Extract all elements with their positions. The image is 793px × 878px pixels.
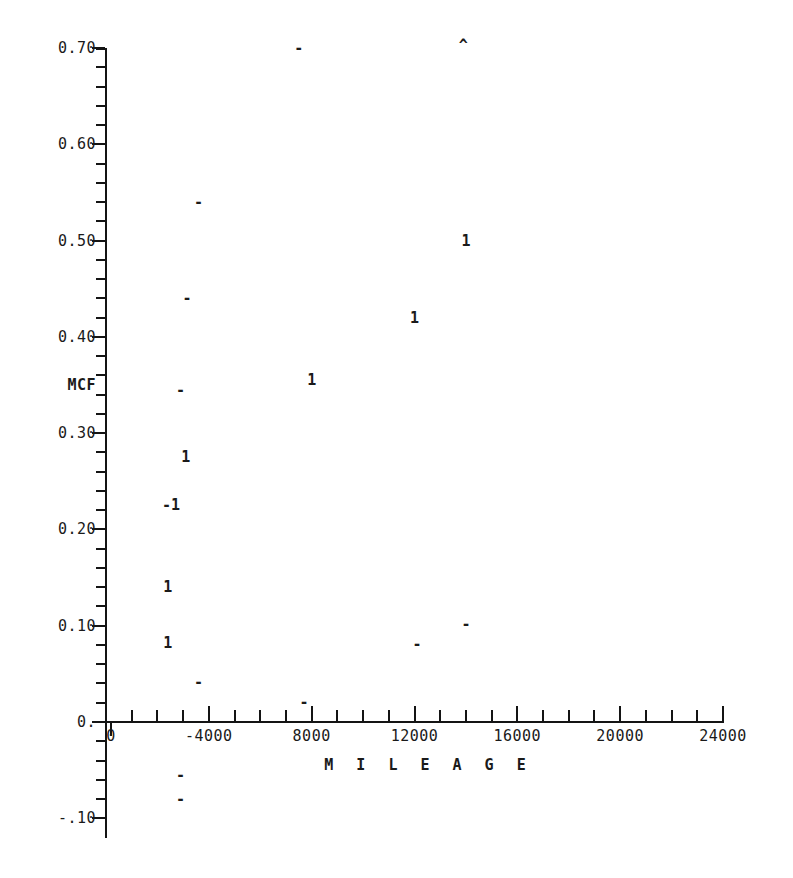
x-axis-minor-tick bbox=[156, 710, 158, 721]
x-axis-minor-tick bbox=[259, 710, 261, 721]
x-axis-minor-tick bbox=[336, 710, 338, 721]
data-point-caret: ^ bbox=[459, 38, 468, 53]
data-point-dash: - bbox=[176, 382, 185, 397]
y-axis-minor-tick bbox=[96, 201, 105, 203]
y-axis-minor-tick bbox=[96, 567, 105, 569]
data-point-dash: - bbox=[413, 637, 422, 652]
x-axis-tick-label: 8000 bbox=[293, 729, 331, 744]
y-axis-minor-tick bbox=[96, 548, 105, 550]
y-axis-tick-label: 0.20 bbox=[58, 522, 96, 537]
y-axis-title: MCF bbox=[67, 378, 96, 393]
y-axis-minor-tick bbox=[96, 124, 105, 126]
data-point-dash: - bbox=[162, 498, 171, 513]
y-axis-minor-tick bbox=[96, 355, 105, 357]
x-axis-tick-label: -4000 bbox=[185, 729, 233, 744]
x-axis-minor-tick bbox=[491, 710, 493, 721]
y-axis-minor-tick bbox=[96, 297, 105, 299]
x-axis-minor-tick bbox=[388, 710, 390, 721]
y-axis-minor-tick bbox=[96, 779, 105, 781]
y-axis-minor-tick bbox=[96, 163, 105, 165]
x-axis-major-tick bbox=[619, 706, 621, 721]
y-axis-tick-label: 0.70 bbox=[58, 41, 96, 56]
x-axis-minor-tick bbox=[465, 710, 467, 721]
data-point-one: 1 bbox=[163, 580, 172, 595]
x-axis-tick-label: 20000 bbox=[596, 729, 644, 744]
data-point-one: 1 bbox=[410, 310, 419, 325]
x-axis-minor-tick bbox=[696, 710, 698, 721]
x-axis-minor-tick bbox=[362, 710, 364, 721]
x-axis-major-tick bbox=[722, 706, 724, 721]
data-point-dash: - bbox=[176, 767, 185, 782]
y-axis-minor-tick bbox=[96, 66, 105, 68]
y-axis-minor-tick bbox=[96, 451, 105, 453]
x-axis-minor-tick bbox=[568, 710, 570, 721]
y-axis-tick-label: 0.50 bbox=[58, 234, 96, 249]
x-axis-tick-label: 12000 bbox=[391, 729, 439, 744]
y-axis-tick-label: 0.10 bbox=[58, 619, 96, 634]
data-point-dash: - bbox=[299, 694, 308, 709]
y-axis-minor-tick bbox=[96, 490, 105, 492]
data-point-dash: - bbox=[294, 41, 303, 56]
data-point-dash: - bbox=[176, 792, 185, 807]
x-axis-minor-tick bbox=[671, 710, 673, 721]
y-axis-minor-tick bbox=[96, 182, 105, 184]
x-axis-minor-tick bbox=[542, 710, 544, 721]
x-axis-minor-tick bbox=[593, 710, 595, 721]
y-axis-minor-tick bbox=[96, 740, 105, 742]
data-point-one: 1 bbox=[171, 498, 180, 513]
y-axis-minor-tick bbox=[96, 605, 105, 607]
data-point-one: 1 bbox=[163, 636, 172, 651]
y-axis-minor-tick bbox=[96, 317, 105, 319]
y-axis-minor-tick bbox=[96, 471, 105, 473]
y-axis-minor-tick bbox=[96, 644, 105, 646]
y-axis-minor-tick bbox=[96, 220, 105, 222]
y-axis-minor-tick bbox=[96, 682, 105, 684]
y-axis-minor-tick bbox=[96, 413, 105, 415]
y-axis-tick-label: -.10 bbox=[58, 811, 96, 826]
x-axis-major-tick bbox=[516, 706, 518, 721]
y-axis-minor-tick bbox=[96, 394, 105, 396]
x-axis-tick-label: 0 bbox=[106, 729, 116, 744]
y-axis-tick-label: 0. bbox=[77, 715, 96, 730]
y-axis-tick-label: 0.30 bbox=[58, 426, 96, 441]
scatter-plot: 0.700.600.500.400.300.200.100.-.10 0-400… bbox=[0, 0, 793, 878]
y-axis-minor-tick bbox=[96, 509, 105, 511]
x-axis-minor-tick bbox=[645, 710, 647, 721]
y-axis-minor-tick bbox=[96, 278, 105, 280]
data-point-one: 1 bbox=[181, 450, 190, 465]
x-axis-major-tick bbox=[208, 706, 210, 721]
x-axis-tick-label: 16000 bbox=[494, 729, 542, 744]
y-axis-minor-tick bbox=[96, 259, 105, 261]
x-axis-minor-tick bbox=[439, 710, 441, 721]
data-point-one: 1 bbox=[307, 373, 316, 388]
x-axis-major-tick bbox=[414, 706, 416, 721]
data-point-dash: - bbox=[194, 195, 203, 210]
y-axis-minor-tick bbox=[96, 798, 105, 800]
data-point-dash: - bbox=[182, 291, 191, 306]
x-axis-major-tick bbox=[311, 706, 313, 721]
y-axis-minor-tick bbox=[96, 86, 105, 88]
data-point-one: 1 bbox=[461, 233, 470, 248]
y-axis-minor-tick bbox=[96, 702, 105, 704]
y-axis-minor-tick bbox=[96, 105, 105, 107]
data-point-dash: - bbox=[461, 616, 470, 631]
x-axis-line bbox=[105, 721, 724, 723]
x-axis-minor-tick bbox=[285, 710, 287, 721]
y-axis-minor-tick bbox=[96, 586, 105, 588]
x-axis-minor-tick bbox=[131, 710, 133, 721]
y-axis-tick-label: 0.40 bbox=[58, 330, 96, 345]
x-axis-minor-tick bbox=[234, 710, 236, 721]
x-axis-title: M I L E A G E bbox=[317, 758, 532, 773]
y-axis-minor-tick bbox=[96, 374, 105, 376]
x-axis-tick-label: 24000 bbox=[699, 729, 747, 744]
y-axis-minor-tick bbox=[96, 663, 105, 665]
x-axis-major-tick bbox=[105, 706, 107, 721]
y-axis-minor-tick bbox=[96, 760, 105, 762]
data-point-dash: - bbox=[194, 674, 203, 689]
y-axis-tick-label: 0.60 bbox=[58, 137, 96, 152]
x-axis-minor-tick bbox=[182, 710, 184, 721]
